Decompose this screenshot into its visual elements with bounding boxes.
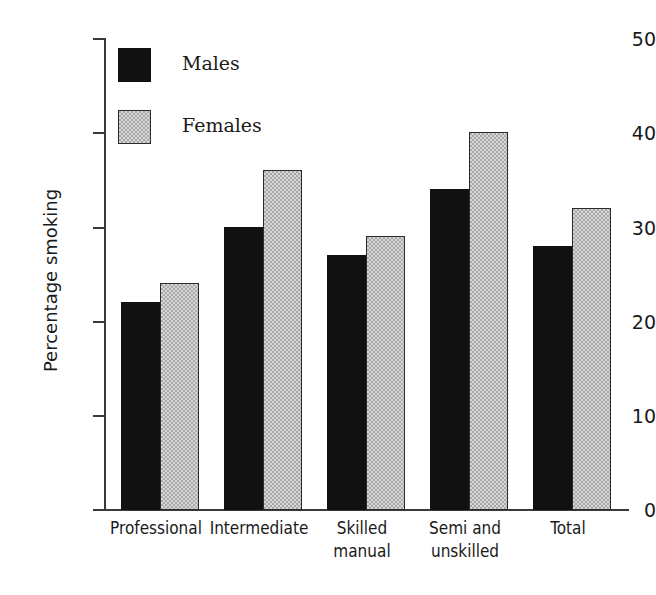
y-tick-50 [93, 38, 104, 40]
bar-males-intermediate [224, 227, 263, 510]
x-label-professional: Professional [104, 517, 208, 540]
x-label-professional-line1: Professional [104, 517, 208, 540]
x-label-intermediate: Intermediate [207, 517, 311, 540]
legend-label-females: Females [182, 114, 262, 136]
x-label-total: Total [516, 517, 620, 540]
x-label-intermediate-line1: Intermediate [207, 517, 311, 540]
bar-females-skilled-manual [366, 236, 405, 510]
males-swatch-icon [118, 48, 151, 82]
females-swatch-icon [118, 110, 151, 144]
bar-males-skilled-manual [327, 255, 366, 510]
x-label-semi-unskilled-line1: Semi and [413, 517, 517, 540]
y-tick-30 [93, 227, 104, 229]
x-label-skilled-manual-line2: manual [310, 540, 414, 563]
x-label-total-line1: Total [516, 517, 620, 540]
x-label-skilled-manual: Skilled manual [310, 517, 414, 563]
bar-females-intermediate [263, 170, 302, 510]
bar-chart-figure: Percentage smoking 50 40 30 20 10 0 [0, 0, 656, 595]
y-tick-20 [93, 321, 104, 323]
plot-area: Males Females [104, 38, 629, 510]
y-tick-10 [93, 415, 104, 417]
bar-males-total [533, 246, 572, 510]
x-label-semi-unskilled: Semi and unskilled [413, 517, 517, 563]
x-label-skilled-manual-line1: Skilled [310, 517, 414, 540]
bar-females-professional [160, 283, 199, 510]
y-axis-title: Percentage smoking [40, 171, 61, 391]
y-tick-0 [93, 509, 104, 511]
x-label-semi-unskilled-line2: unskilled [413, 540, 517, 563]
legend-label-males: Males [182, 52, 240, 74]
bar-females-semi-unskilled [469, 132, 508, 510]
bar-males-professional [121, 302, 160, 510]
y-tick-40 [93, 132, 104, 134]
bar-males-semi-unskilled [430, 189, 469, 510]
bar-females-total [572, 208, 611, 510]
